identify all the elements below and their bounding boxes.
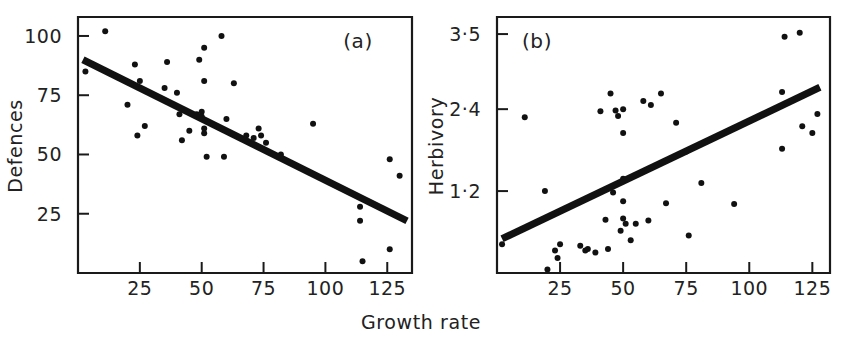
- panel-a-regression-line: [83, 60, 407, 221]
- figure-container: 255075100 255075100125 Defences (a) 1·22…: [0, 0, 842, 348]
- panel-a-y-tick-labels: 255075100: [24, 25, 62, 225]
- data-point: [779, 146, 785, 152]
- data-point: [263, 140, 269, 146]
- data-point: [577, 243, 583, 249]
- x-tick-label: 75: [674, 277, 699, 299]
- data-point: [698, 180, 704, 186]
- data-point: [620, 215, 626, 221]
- panel-a-x-ticks: [140, 262, 387, 273]
- data-point: [204, 154, 210, 160]
- data-point: [387, 156, 393, 162]
- x-tick-label: 50: [189, 277, 214, 299]
- data-point: [608, 90, 614, 96]
- panel-b-frame: [497, 17, 830, 273]
- data-point: [186, 128, 192, 134]
- data-point: [779, 89, 785, 95]
- data-point: [597, 108, 603, 114]
- data-point: [522, 114, 528, 120]
- x-tick-label: 75: [251, 277, 276, 299]
- y-tick-label: 3·5: [449, 23, 481, 45]
- data-point: [809, 130, 815, 136]
- panel-b-x-tick-labels: 255075100125: [547, 277, 831, 299]
- y-tick-label: 1·2: [449, 180, 481, 202]
- scatter-figure: 255075100 255075100125 Defences (a) 1·22…: [0, 0, 842, 348]
- panel-b-regression-line: [502, 87, 820, 239]
- data-point: [648, 102, 654, 108]
- x-tick-label: 100: [307, 277, 345, 299]
- data-point: [544, 267, 550, 273]
- data-point: [782, 34, 788, 40]
- data-point: [162, 85, 168, 91]
- data-point: [799, 123, 805, 129]
- data-point: [164, 59, 170, 65]
- data-point: [258, 133, 264, 139]
- data-point: [231, 80, 237, 86]
- data-point: [613, 108, 619, 114]
- data-point: [102, 28, 108, 34]
- data-point: [605, 246, 611, 252]
- x-tick-label: 125: [793, 277, 831, 299]
- data-point: [623, 221, 629, 227]
- panel-b-y-tick-labels: 1·22·43·5: [449, 23, 481, 202]
- data-point: [628, 237, 634, 243]
- panel-b: 1·22·43·5 255075100125 Herbivory (b): [425, 17, 831, 299]
- x-tick-label: 25: [547, 277, 572, 299]
- data-point: [797, 30, 803, 36]
- y-tick-label: 50: [37, 143, 62, 165]
- panel-b-data-points: [499, 30, 820, 273]
- data-point: [640, 98, 646, 104]
- data-point: [555, 255, 561, 261]
- data-point: [357, 204, 363, 210]
- panel-b-x-ticks: [560, 262, 812, 273]
- data-point: [620, 106, 626, 112]
- data-point: [686, 232, 692, 238]
- shared-x-axis-title: Growth rate: [361, 311, 481, 333]
- data-point: [219, 33, 225, 39]
- data-point: [633, 221, 639, 227]
- y-tick-label: 25: [37, 203, 62, 225]
- panel-a: 255075100 255075100125 Defences (a): [4, 17, 412, 299]
- panel-a-y-axis-title: Defences: [4, 99, 26, 193]
- data-point: [221, 154, 227, 160]
- data-point: [124, 102, 130, 108]
- data-point: [552, 247, 558, 253]
- data-point: [557, 241, 563, 247]
- data-point: [592, 250, 598, 256]
- y-tick-label: 2·4: [449, 98, 481, 120]
- data-point: [201, 78, 207, 84]
- panel-a-data-points: [82, 28, 402, 264]
- data-point: [357, 218, 363, 224]
- data-point: [658, 90, 664, 96]
- data-point: [673, 120, 679, 126]
- data-point: [620, 198, 626, 204]
- data-point: [310, 121, 316, 127]
- data-point: [360, 258, 366, 264]
- data-point: [814, 111, 820, 117]
- data-point: [387, 246, 393, 252]
- data-point: [201, 45, 207, 51]
- data-point: [142, 123, 148, 129]
- data-point: [134, 133, 140, 139]
- x-tick-label: 125: [368, 277, 406, 299]
- y-tick-label: 75: [37, 84, 62, 106]
- data-point: [397, 173, 403, 179]
- data-point: [602, 217, 608, 223]
- data-point: [82, 69, 88, 75]
- data-point: [499, 241, 505, 247]
- panel-a-frame: [78, 17, 412, 273]
- data-point: [223, 116, 229, 122]
- data-point: [618, 228, 624, 234]
- x-tick-label: 100: [730, 277, 768, 299]
- data-point: [132, 61, 138, 67]
- data-point: [645, 217, 651, 223]
- panel-a-axes: [78, 17, 412, 273]
- panel-b-y-ticks: [497, 34, 508, 191]
- data-point: [615, 113, 621, 119]
- data-point: [731, 201, 737, 207]
- data-point: [256, 125, 262, 131]
- data-point: [201, 130, 207, 136]
- y-tick-label: 100: [24, 25, 62, 47]
- data-point: [542, 188, 548, 194]
- x-tick-label: 50: [611, 277, 636, 299]
- x-tick-label: 25: [127, 277, 152, 299]
